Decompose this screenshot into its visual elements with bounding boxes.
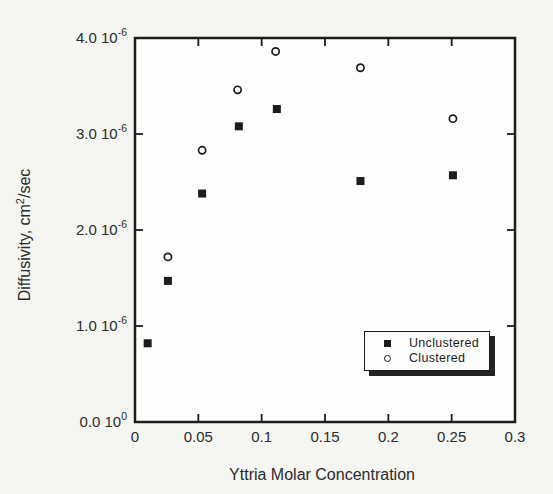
data-point-clustered (357, 64, 364, 71)
legend-item-clustered: Clustered (365, 351, 489, 365)
y-tick-label: 3.0 10-6 (76, 122, 127, 142)
data-point-unclustered (164, 277, 172, 285)
legend-label-clustered: Clustered (409, 351, 465, 365)
data-point-unclustered (144, 339, 152, 347)
data-point-unclustered (356, 177, 364, 185)
x-tick-label: 0.15 (310, 428, 339, 445)
data-point-unclustered (235, 122, 243, 130)
y-tick-label: 4.0 10-6 (76, 26, 127, 46)
y-axis-title: Diffusivity, cm2/sec (14, 169, 34, 302)
data-point-unclustered (273, 105, 281, 113)
data-point-clustered (272, 48, 279, 55)
data-point-clustered (449, 115, 456, 122)
legend-marker-cell (365, 355, 409, 362)
data-point-clustered (234, 86, 241, 93)
legend-item-unclustered: Unclustered (365, 336, 489, 350)
y-tick-label: 0.0 100 (79, 410, 127, 430)
legend-marker-cell (365, 340, 409, 347)
y-tick-label: 1.0 10-6 (76, 314, 127, 334)
x-tick-label: 0.1 (251, 428, 272, 445)
x-tick-label: 0.05 (184, 428, 213, 445)
y-tick-label: 2.0 10-6 (76, 218, 127, 238)
x-axis-title: Yttria Molar Concentration (229, 466, 415, 484)
legend-label-unclustered: Unclustered (409, 336, 479, 350)
chart-canvas: 00.050.10.150.20.250.30.0 1001.0 10-62.0… (0, 0, 553, 494)
x-tick-label: 0.2 (378, 428, 399, 445)
y-axis-title-superscript: 2 (14, 198, 26, 204)
filled-square-icon (384, 340, 391, 347)
data-point-clustered (164, 253, 171, 260)
data-point-clustered (199, 147, 206, 154)
y-axis-title-unit: /sec (16, 169, 33, 198)
x-tick-label: 0 (131, 428, 139, 445)
diffusivity-scatter-figure: 00.050.10.150.20.250.30.0 1001.0 10-62.0… (0, 0, 553, 494)
data-point-unclustered (198, 190, 206, 198)
y-axis-title-text: Diffusivity, cm (16, 204, 33, 301)
open-circle-icon (384, 355, 391, 362)
x-tick-label: 0.3 (505, 428, 526, 445)
x-tick-label: 0.25 (437, 428, 466, 445)
legend-box: Unclustered Clustered (364, 331, 490, 371)
data-point-unclustered (449, 171, 457, 179)
